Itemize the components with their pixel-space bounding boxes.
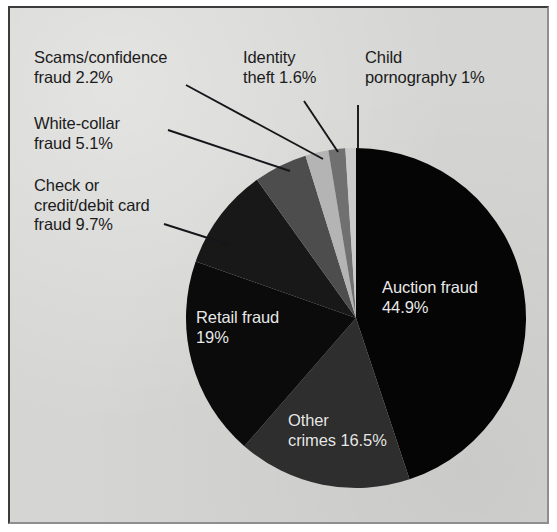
callout-label-white-collar-fraud: White-collar fraud 5.1%: [34, 114, 194, 153]
leader-line-identity-theft: [304, 101, 338, 152]
callout-label-child-pornography: Child pornography 1%: [365, 48, 515, 87]
callout-label-identity-theft: Identity theft 1.6%: [243, 48, 353, 87]
pie-chart-figure: Scams/confidence fraud 2.2% White-collar…: [0, 0, 557, 532]
callout-label-scams-confidence-fraud: Scams/confidence fraud 2.2%: [34, 48, 224, 87]
leader-line-scams: [186, 85, 323, 159]
slice-label-other-crimes: Other crimes 16.5%: [288, 410, 438, 450]
slice-label-auction-fraud: Auction fraud 44.9%: [382, 277, 522, 317]
slice-label-retail-fraud: Retail fraud 19%: [196, 307, 331, 347]
callout-label-check-credit-debit-card-fraud: Check or credit/debit card fraud 9.7%: [34, 176, 224, 235]
